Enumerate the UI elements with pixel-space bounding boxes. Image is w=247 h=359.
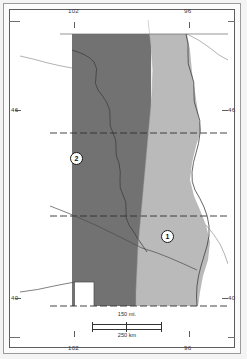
region-marker-2-label: 2 [75,155,79,162]
scale-line-km-bar [92,329,162,330]
region-marker-2[interactable]: 2 [70,152,83,165]
label-latitude-left-40: 40 [11,295,18,301]
map-figure: 102 96 102 96 46 40 46 40 2 1 150 mi. 25… [0,0,247,359]
scale-bar: 150 mi. 250 km [92,311,162,343]
scale-line-miles-bar [92,324,162,325]
scale-miles-label-row: 150 mi. [92,311,162,322]
map-graphic [20,20,228,339]
scale-km-label: 250 km [92,332,162,339]
tick-lon-96-bottom [189,331,190,337]
label-longitude-bottom-96: 96 [184,345,191,351]
tick-lon-102-top [74,22,75,28]
region-marker-1-label: 1 [166,233,170,240]
region-marker-1[interactable]: 1 [161,230,174,243]
boundary-west-lower [20,282,75,292]
tick-lon-102-bottom [74,331,75,337]
scale-miles-label: 150 mi. [92,311,162,318]
label-longitude-top-102: 102 [68,8,79,14]
label-longitude-top-96: 96 [184,8,191,14]
tick-lon-96-top [189,22,190,28]
map-plot-area[interactable] [20,20,228,339]
label-latitude-left-46: 46 [11,107,18,113]
label-latitude-right-40: 40 [228,295,235,301]
boundary-minnesota-edge [187,34,228,60]
scale-km-label-row: 250 km [92,332,162,343]
label-longitude-bottom-102: 102 [68,345,79,351]
label-latitude-right-46: 46 [228,107,235,113]
boundary-montana-edge [20,56,72,68]
boundary-southwest-notch [75,282,94,306]
